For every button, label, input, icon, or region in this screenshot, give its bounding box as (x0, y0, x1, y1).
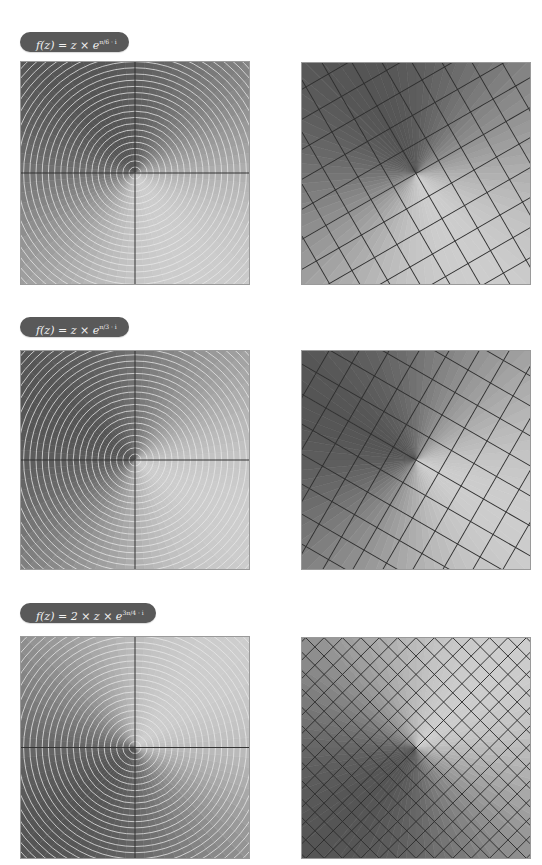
rotated-grid-graphic (302, 351, 530, 569)
rotated-grid-graphic (302, 638, 530, 858)
polar-grid-graphic (21, 637, 249, 858)
polar-grid-graphic (21, 62, 249, 284)
formula-label-1: f(z) = z × eπ/6 · i (20, 32, 129, 52)
formula-text: f(z) = 2 × z × e (36, 610, 122, 623)
image-plot-1 (301, 62, 531, 285)
formula-exponent: π/3 · i (99, 323, 116, 330)
polar-grid-graphic (21, 351, 249, 569)
formula-exponent: 3π/4 · i (122, 609, 143, 616)
formula-text: f(z) = z × e (36, 324, 99, 337)
formula-exponent: π/6 · i (99, 38, 116, 45)
formula-text: f(z) = z × e (36, 39, 99, 52)
formula-label-3: f(z) = 2 × z × e3π/4 · i (20, 603, 156, 623)
domain-plot-3 (20, 636, 250, 859)
domain-plot-1 (20, 61, 250, 285)
image-plot-2 (301, 350, 531, 570)
domain-plot-2 (20, 350, 250, 570)
image-plot-3 (301, 637, 531, 859)
rotated-grid-graphic (302, 63, 530, 284)
formula-label-2: f(z) = z × eπ/3 · i (20, 317, 129, 337)
